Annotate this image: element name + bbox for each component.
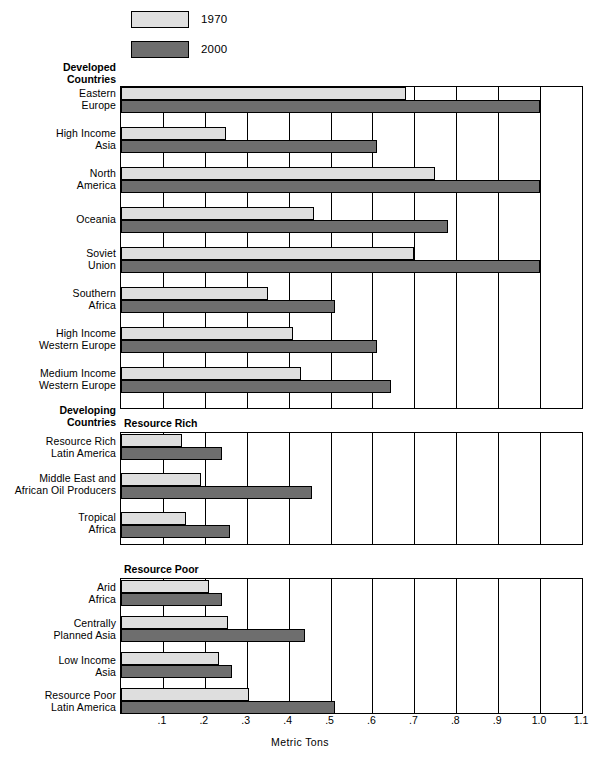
bar-2000 — [121, 593, 222, 606]
bar-2000 — [121, 100, 540, 113]
bar-2000 — [121, 260, 540, 273]
x-axis-tick-label: .2 — [199, 714, 208, 726]
row-label-north-america: North America — [0, 168, 116, 191]
x-axis-tick-label: .3 — [241, 714, 250, 726]
row-label-line: Eastern — [0, 88, 116, 100]
x-axis-tick-label: 1.0 — [532, 714, 547, 726]
bar-1970 — [121, 287, 268, 300]
bar-2000 — [121, 180, 540, 193]
bar-1970 — [121, 616, 228, 629]
row-label-line: Resource Poor — [0, 690, 116, 702]
row-label-line: Southern — [0, 288, 116, 300]
row-label-line: Western Europe — [0, 380, 116, 392]
bar-1970 — [121, 473, 201, 486]
row-label-low-income-asia: Low Income Asia — [0, 655, 116, 678]
row-label-line: Africa — [0, 594, 116, 606]
bar-group — [121, 127, 582, 153]
row-label-eastern-europe: Eastern Europe — [0, 88, 116, 111]
bar-rows-resource-poor — [121, 579, 582, 713]
bar-rows-developed — [121, 87, 582, 408]
row-label-line: Europe — [0, 100, 116, 112]
bar-group — [121, 652, 582, 678]
bar-2000 — [121, 380, 391, 393]
legend-swatch-1970 — [131, 11, 189, 28]
bar-1970 — [121, 207, 314, 220]
row-label-high-income-asia: High Income Asia — [0, 128, 116, 151]
bar-group — [121, 167, 582, 193]
row-label-line: North — [0, 168, 116, 180]
bar-2000 — [121, 140, 377, 153]
row-label-line: Africa — [0, 300, 116, 312]
legend-label-1970: 1970 — [201, 13, 227, 25]
row-label-line: High Income — [0, 128, 116, 140]
row-label-line: Oceania — [0, 214, 116, 226]
bar-group — [121, 367, 582, 393]
row-label-line: Asia — [0, 140, 116, 152]
bar-1970 — [121, 127, 226, 140]
bar-2000 — [121, 629, 305, 642]
row-label-line: Africa — [0, 524, 116, 536]
bar-1970 — [121, 87, 406, 100]
section-header-resource-rich: Resource Rich — [124, 417, 198, 429]
row-label-tropical-africa: Tropical Africa — [0, 512, 116, 535]
row-label-resource-rich-latin-america: Resource Rich Latin America — [0, 436, 116, 459]
row-label-oceania: Oceania — [0, 214, 116, 226]
bar-group — [121, 688, 582, 714]
row-label-line: Arid — [0, 582, 116, 594]
legend-item-2000: 2000 — [131, 38, 227, 60]
legend-label-2000: 2000 — [201, 43, 227, 55]
legend-item-1970: 1970 — [131, 8, 227, 30]
row-label-southern-africa: Southern Africa — [0, 288, 116, 311]
x-axis-tick-label: .8 — [451, 714, 460, 726]
bar-1970 — [121, 512, 186, 525]
bar-1970 — [121, 434, 182, 447]
row-label-line: Asia — [0, 667, 116, 679]
row-label-line: Soviet — [0, 248, 116, 260]
row-label-soviet-union: Soviet Union — [0, 248, 116, 271]
bar-group — [121, 87, 582, 113]
x-axis-tick-label: .4 — [283, 714, 292, 726]
section-header-developed: Developed Countries — [0, 62, 116, 85]
x-axis-tick-label: 1.1 — [574, 714, 589, 726]
bar-2000 — [121, 340, 377, 353]
row-label-line: Latin America — [0, 448, 116, 460]
bar-group — [121, 327, 582, 353]
chart-root: 1970 2000 Developed Countries Eastern Eu… — [0, 0, 600, 771]
x-axis-tick-label: .7 — [409, 714, 418, 726]
panel-developed-countries — [120, 86, 583, 409]
bar-1970 — [121, 688, 249, 701]
bar-1970 — [121, 327, 293, 340]
bar-group — [121, 287, 582, 313]
row-label-line: Resource Rich — [0, 436, 116, 448]
section-header-developed-line2: Countries — [0, 74, 116, 86]
bar-1970 — [121, 367, 301, 380]
bar-group — [121, 247, 582, 273]
bar-2000 — [121, 486, 312, 499]
bar-group — [121, 512, 582, 538]
row-label-middle-east-african-oil: Middle East and African Oil Producers — [0, 473, 116, 496]
row-label-line: Centrally — [0, 618, 116, 630]
section-header-developing-line1: Developing — [0, 405, 116, 417]
bar-2000 — [121, 220, 448, 233]
x-axis-title: Metric Tons — [0, 736, 600, 748]
bar-group — [121, 434, 582, 460]
bar-1970 — [121, 580, 209, 593]
row-label-line: Medium Income — [0, 368, 116, 380]
x-axis-tick-label: .9 — [493, 714, 502, 726]
x-axis: .1.2.3.4.5.6.7.8.91.01.1 Metric Tons — [0, 714, 600, 744]
bar-rows-resource-rich — [121, 433, 582, 544]
panel-resource-poor — [120, 578, 583, 714]
row-label-resource-poor-latin-america: Resource Poor Latin America — [0, 690, 116, 713]
x-axis-tick-label: .5 — [325, 714, 334, 726]
bar-2000 — [121, 525, 230, 538]
bar-group — [121, 616, 582, 642]
bar-1970 — [121, 652, 219, 665]
bar-2000 — [121, 300, 335, 313]
bar-group — [121, 473, 582, 499]
row-label-line: Middle East and — [0, 473, 116, 485]
section-header-developing: Developing Countries — [0, 405, 116, 428]
row-label-line: Latin America — [0, 702, 116, 714]
bar-2000 — [121, 447, 222, 460]
row-label-high-income-western-europe: High Income Western Europe — [0, 328, 116, 351]
bar-group — [121, 207, 582, 233]
